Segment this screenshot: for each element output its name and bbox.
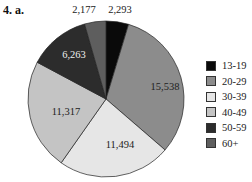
legend-item: 30-39: [206, 89, 247, 105]
slice-value-label: 6,263: [62, 49, 86, 60]
legend-swatch: [206, 107, 216, 117]
legend-item: 50-59: [206, 120, 247, 136]
legend-item: 20-29: [206, 74, 247, 90]
slice-value-label: 15,538: [151, 81, 180, 92]
slice-value-label: 2,293: [108, 4, 132, 15]
legend: 13-19 20-29 30-39 40-49 50-59 60+: [206, 58, 247, 151]
legend-swatch: [206, 76, 216, 86]
legend-swatch: [206, 61, 216, 71]
slice-value-label: 11,494: [106, 139, 135, 150]
legend-item: 13-19: [206, 58, 247, 74]
legend-swatch: [206, 138, 216, 148]
slice-value-label: 11,317: [52, 106, 81, 117]
legend-swatch: [206, 123, 216, 133]
legend-item: 40-49: [206, 105, 247, 121]
legend-item: 60+: [206, 136, 247, 152]
legend-swatch: [206, 92, 216, 102]
slice-value-label: 2,177: [72, 4, 96, 15]
